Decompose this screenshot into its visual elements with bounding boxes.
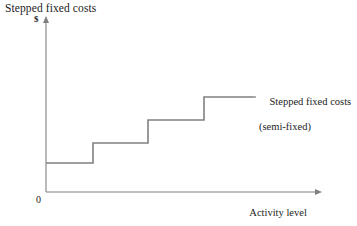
x-axis-label: Activity level (units of output)	[239, 195, 307, 226]
y-axis-arrow-icon	[43, 16, 49, 23]
origin-label: 0	[36, 194, 41, 206]
y-axis-label: $	[34, 14, 39, 25]
x-axis-label-line1: Activity level	[249, 207, 306, 218]
step-function-series	[46, 97, 253, 163]
series-annotation-line1: Stepped fixed costs	[270, 96, 352, 107]
chart-figure: Stepped fixed costs $ 0 Activity level (…	[0, 0, 357, 226]
chart-title: Stepped fixed costs	[5, 2, 96, 16]
series-annotation-line2: (semi-fixed)	[259, 121, 351, 133]
series-annotation: Stepped fixed costs (semi-fixed)	[259, 84, 351, 158]
x-axis-arrow-icon	[315, 189, 322, 195]
